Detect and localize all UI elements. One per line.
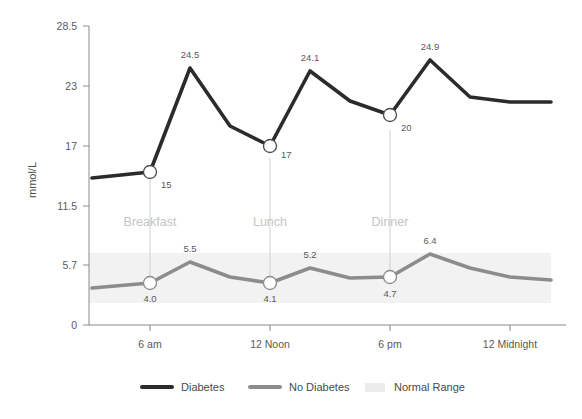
value-label-no-diabetes-5-2: 5.2 — [303, 249, 316, 260]
value-label-diabetes-24-1: 24.1 — [301, 52, 320, 63]
value-label-no-diabetes-4-1: 4.1 — [263, 293, 276, 304]
value-label-diabetes-24-5: 24.5 — [181, 49, 200, 60]
chart-legend: Diabetes No Diabetes Normal Range — [142, 381, 465, 393]
meal-label-breakfast: Breakfast — [124, 215, 177, 229]
y-tick-label-11-5: 11.5 — [57, 200, 77, 212]
meal-label-dinner: Dinner — [372, 215, 409, 229]
y-axis-title: mmol/L — [26, 162, 38, 198]
meal-label-lunch: Lunch — [253, 215, 287, 229]
series-line-diabetes — [92, 60, 551, 178]
chart-canvas: 28.5 23 17 11.5 5.7 0 mmol/L 6 am 12 Noo… — [0, 0, 582, 419]
y-tick-label-23: 23 — [65, 80, 77, 92]
marker-no-diabetes-lunch[interactable] — [264, 277, 277, 290]
value-label-no-diabetes-6-4: 6.4 — [423, 235, 436, 246]
marker-no-diabetes-breakfast[interactable] — [144, 277, 157, 290]
y-tick-label-0: 0 — [71, 319, 77, 331]
marker-diabetes-breakfast[interactable] — [144, 166, 157, 179]
x-axis-ticks — [150, 325, 510, 331]
blood-glucose-chart: 28.5 23 17 11.5 5.7 0 mmol/L 6 am 12 Noo… — [0, 0, 582, 419]
y-axis-ticks — [83, 26, 89, 325]
value-label-diabetes-15: 15 — [161, 179, 172, 190]
x-tick-label-6am: 6 am — [138, 338, 162, 350]
x-tick-label-6pm: 6 pm — [378, 338, 402, 350]
value-label-diabetes-24-9: 24.9 — [421, 41, 440, 52]
x-tick-label-12noon: 12 Noon — [250, 338, 290, 350]
y-tick-label-17: 17 — [65, 140, 77, 152]
legend-label-no-diabetes[interactable]: No Diabetes — [289, 381, 350, 393]
y-tick-label-28-5: 28.5 — [57, 20, 78, 32]
marker-diabetes-lunch[interactable] — [264, 140, 277, 153]
value-label-no-diabetes-4-7: 4.7 — [383, 288, 396, 299]
legend-swatch-normal-range — [365, 383, 385, 392]
marker-no-diabetes-dinner[interactable] — [384, 271, 397, 284]
value-label-no-diabetes-4-0: 4.0 — [143, 293, 156, 304]
y-tick-label-5-7: 5.7 — [62, 259, 77, 271]
legend-label-diabetes[interactable]: Diabetes — [181, 381, 225, 393]
value-label-diabetes-20: 20 — [401, 122, 412, 133]
value-label-diabetes-17: 17 — [281, 149, 292, 160]
marker-diabetes-dinner[interactable] — [384, 109, 397, 122]
value-label-no-diabetes-5-5: 5.5 — [183, 243, 196, 254]
legend-label-normal-range[interactable]: Normal Range — [394, 381, 465, 393]
x-tick-label-12midnight: 12 Midnight — [483, 338, 537, 350]
